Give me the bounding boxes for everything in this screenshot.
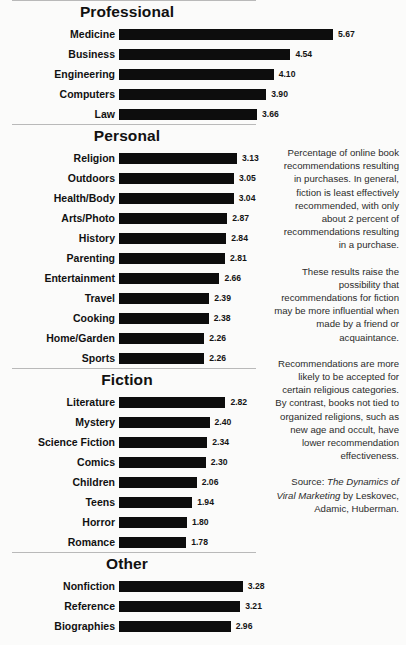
bar-value-label: 5.67 bbox=[338, 29, 355, 39]
bar-row: Arts/Photo2.87 bbox=[0, 208, 268, 228]
section-title: Fiction bbox=[0, 371, 268, 389]
bar-row: History2.84 bbox=[0, 228, 268, 248]
section-title: Personal bbox=[0, 127, 268, 145]
bar-value-label: 2.30 bbox=[211, 457, 228, 467]
bar-area: 3.66 bbox=[119, 109, 268, 120]
bar bbox=[119, 89, 266, 100]
category-label: Outdoors bbox=[0, 172, 119, 184]
bar-row: Law3.66 bbox=[0, 104, 268, 124]
category-label: Law bbox=[0, 108, 119, 120]
bar-value-label: 2.84 bbox=[231, 233, 248, 243]
infographic-page: ProfessionalMedicine5.67Business4.54Engi… bbox=[0, 0, 406, 645]
bar-row: Horror1.80 bbox=[0, 512, 268, 532]
bar-row: Science Fiction2.34 bbox=[0, 432, 268, 452]
bar-area: 2.26 bbox=[119, 353, 268, 364]
bar bbox=[119, 273, 219, 284]
bar bbox=[119, 193, 234, 204]
bar-value-label: 3.04 bbox=[239, 193, 256, 203]
bar bbox=[119, 233, 226, 244]
bar-area: 4.10 bbox=[119, 69, 268, 80]
bar-value-label: 4.10 bbox=[279, 69, 296, 79]
bar-area: 2.39 bbox=[119, 293, 268, 304]
bar-area: 3.21 bbox=[119, 601, 268, 612]
bar bbox=[119, 621, 231, 632]
source-prefix: Source: bbox=[291, 476, 327, 487]
bar-area: 2.96 bbox=[119, 621, 268, 632]
category-label: Reference bbox=[0, 600, 119, 612]
category-label: Parenting bbox=[0, 252, 119, 264]
bar-row: Reference3.21 bbox=[0, 596, 268, 616]
bar-area: 2.34 bbox=[119, 437, 268, 448]
section-divider bbox=[12, 368, 256, 369]
category-label: Horror bbox=[0, 516, 119, 528]
bar bbox=[119, 477, 197, 488]
source-note: Source: The Dynamics of Viral Marketing … bbox=[274, 475, 399, 515]
bar bbox=[119, 213, 227, 224]
section-rows: Religion3.13Outdoors3.05Health/Body3.04A… bbox=[0, 148, 268, 368]
bar-value-label: 2.96 bbox=[236, 621, 253, 631]
bar-value-label: 1.80 bbox=[192, 517, 209, 527]
section-rows: Literature2.82Mystery2.40Science Fiction… bbox=[0, 392, 268, 552]
section-title: Professional bbox=[0, 3, 268, 21]
bar-area: 3.90 bbox=[119, 89, 268, 100]
bar-chart: ProfessionalMedicine5.67Business4.54Engi… bbox=[0, 0, 268, 645]
bar-row: Teens1.94 bbox=[0, 492, 268, 512]
bar bbox=[119, 397, 225, 408]
category-label: Health/Body bbox=[0, 192, 119, 204]
bar bbox=[119, 537, 186, 548]
bar bbox=[119, 517, 187, 528]
category-label: History bbox=[0, 232, 119, 244]
caption-paragraph-1: Percentage of online book recommendation… bbox=[274, 146, 399, 252]
bar-row: Children2.06 bbox=[0, 472, 268, 492]
category-label: Religion bbox=[0, 152, 119, 164]
bar bbox=[119, 69, 274, 80]
bar bbox=[119, 581, 243, 592]
bar-value-label: 2.26 bbox=[209, 353, 226, 363]
bar bbox=[119, 109, 257, 120]
bar bbox=[119, 601, 240, 612]
caption-column: Percentage of online book recommendation… bbox=[274, 146, 406, 515]
bar-value-label: 2.38 bbox=[214, 313, 231, 323]
bar-value-label: 2.66 bbox=[224, 273, 241, 283]
bar-row: Nonfiction3.28 bbox=[0, 576, 268, 596]
bar-row: Entertainment2.66 bbox=[0, 268, 268, 288]
category-label: Cooking bbox=[0, 312, 119, 324]
category-label: Nonfiction bbox=[0, 580, 119, 592]
bar bbox=[119, 333, 204, 344]
chart-section-personal: PersonalReligion3.13Outdoors3.05Health/B… bbox=[0, 124, 268, 368]
bar-value-label: 2.06 bbox=[202, 477, 219, 487]
category-label: Science Fiction bbox=[0, 436, 119, 448]
category-label: Comics bbox=[0, 456, 119, 468]
bar-area: 1.80 bbox=[119, 517, 268, 528]
bar-area: 2.81 bbox=[119, 253, 268, 264]
bar bbox=[119, 457, 206, 468]
bar bbox=[119, 293, 209, 304]
section-rows: Medicine5.67Business4.54Engineering4.10C… bbox=[0, 24, 268, 124]
bar-row: Parenting2.81 bbox=[0, 248, 268, 268]
category-label: Sports bbox=[0, 352, 119, 364]
bar-area: 2.30 bbox=[119, 457, 268, 468]
bar-row: Sports2.26 bbox=[0, 348, 268, 368]
chart-section-fiction: FictionLiterature2.82Mystery2.40Science … bbox=[0, 368, 268, 552]
bar-area: 2.87 bbox=[119, 213, 268, 224]
bar-row: Business4.54 bbox=[0, 44, 268, 64]
section-divider bbox=[12, 552, 256, 553]
bar-area: 2.26 bbox=[119, 333, 268, 344]
bar-row: Outdoors3.05 bbox=[0, 168, 268, 188]
bar-row: Romance1.78 bbox=[0, 532, 268, 552]
section-divider bbox=[12, 124, 256, 125]
bar-area: 2.40 bbox=[119, 417, 268, 428]
bar-value-label: 2.40 bbox=[215, 417, 232, 427]
caption-paragraph-3: Recommendations are more likely to be ac… bbox=[274, 357, 399, 463]
bar-row: Religion3.13 bbox=[0, 148, 268, 168]
category-label: Mystery bbox=[0, 416, 119, 428]
bar-row: Comics2.30 bbox=[0, 452, 268, 472]
category-label: Medicine bbox=[0, 28, 119, 40]
bar bbox=[119, 437, 207, 448]
bar-value-label: 2.34 bbox=[212, 437, 229, 447]
bar-area: 3.28 bbox=[119, 581, 268, 592]
bar-area: 2.38 bbox=[119, 313, 268, 324]
bar bbox=[119, 353, 204, 364]
bar-row: Home/Garden2.26 bbox=[0, 328, 268, 348]
category-label: Literature bbox=[0, 396, 119, 408]
